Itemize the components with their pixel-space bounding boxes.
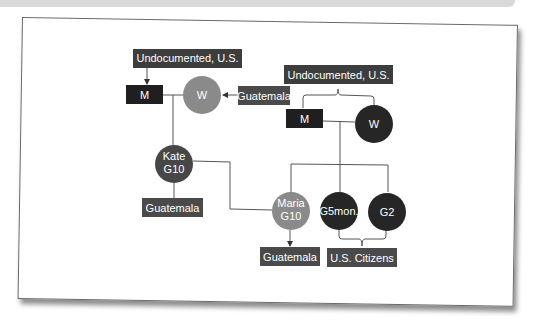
svg-text:Undocumented, U.S.: Undocumented, U.S.	[287, 69, 389, 81]
family-diagram: Undocumented, U.S. M W Guatemala Kate G1…	[0, 0, 539, 327]
left-man-node: M	[126, 85, 163, 104]
kate-origin-box: Guatemala	[142, 198, 203, 217]
right-man-node: M	[286, 109, 323, 128]
svg-text:W: W	[369, 118, 380, 130]
svg-text:W: W	[197, 89, 208, 101]
maria-node: Maria G10	[272, 192, 310, 230]
svg-text:G10: G10	[164, 163, 185, 175]
svg-text:Undocumented, U.S.: Undocumented, U.S.	[136, 52, 238, 64]
svg-text:G10: G10	[281, 210, 302, 222]
svg-text:Guatemala: Guatemala	[146, 202, 201, 214]
left-woman-origin-box: Guatemala	[237, 86, 292, 105]
left-status-box: Undocumented, U.S.	[133, 49, 242, 68]
svg-text:Guatemala: Guatemala	[237, 90, 292, 102]
maria-origin-box: Guatemala	[260, 247, 320, 266]
g5mon-node: G5mon.	[319, 192, 358, 230]
svg-text:M: M	[140, 89, 149, 101]
us-citizens-box: U.S. Citizens	[327, 248, 397, 267]
right-woman-node: W	[355, 105, 393, 143]
kate-node: Kate G10	[155, 145, 193, 183]
left-woman-node: W	[183, 76, 221, 114]
right-status-box: Undocumented, U.S.	[284, 65, 393, 84]
svg-text:U.S. Citizens: U.S. Citizens	[330, 252, 394, 264]
svg-text:G5mon.: G5mon.	[319, 205, 358, 217]
g2-node: G2	[368, 193, 406, 231]
svg-text:G2: G2	[380, 206, 395, 218]
svg-text:Maria: Maria	[277, 197, 305, 209]
svg-text:M: M	[300, 113, 309, 125]
svg-text:Kate: Kate	[163, 150, 186, 162]
svg-text:Guatemala: Guatemala	[263, 251, 318, 263]
